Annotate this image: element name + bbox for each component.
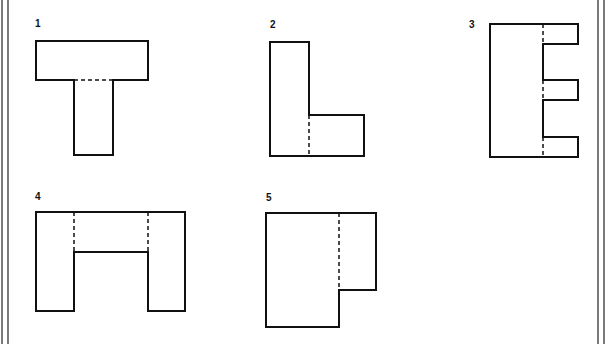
shapes-group: 12345 [35,18,578,327]
shape-label: 2 [270,19,276,30]
shape-outline [36,212,185,311]
shape-5: 5 [266,192,376,327]
shape-label: 5 [266,192,272,203]
shape-2: 2 [270,19,364,156]
shape-outline [270,42,364,156]
shape-outline [266,213,376,327]
shape-1: 1 [35,18,148,155]
shape-label: 3 [469,19,475,30]
shape-outline [36,41,148,155]
shape-label: 1 [35,18,41,29]
shape-3: 3 [469,19,578,157]
shape-label: 4 [35,191,41,202]
shape-outline [490,24,578,157]
shape-4: 4 [35,191,185,311]
figure-canvas: 12345 [0,0,609,344]
